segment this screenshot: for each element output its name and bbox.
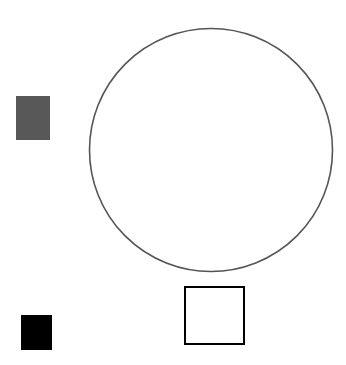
circle-outline-shape: [90, 29, 333, 272]
circle-svg: [0, 0, 346, 365]
black-filled-square: [21, 315, 52, 350]
circle-layer: [0, 0, 346, 365]
shapes-canvas: [0, 0, 346, 365]
black-outlined-square: [184, 286, 245, 345]
gray-filled-square: [16, 96, 50, 140]
